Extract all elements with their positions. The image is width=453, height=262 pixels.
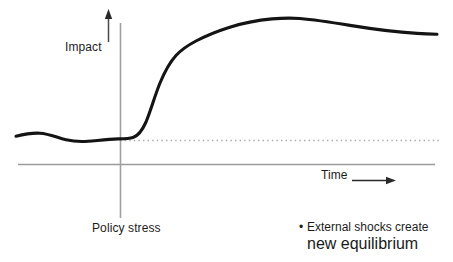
impact-response-curve [16, 18, 437, 141]
annotation-line-1-text: External shocks create [307, 220, 428, 234]
annotation-line-1: •External shocks create [299, 220, 449, 235]
bullet-point-icon: • [299, 220, 307, 235]
arrow-up-icon [105, 9, 112, 42]
x-axis-label: Time [321, 168, 348, 182]
annotation-bullet: •External shocks create new equilibrium [299, 220, 449, 253]
y-axis-label: Impact [65, 40, 102, 54]
policy-stress-label: Policy stress [92, 221, 161, 235]
impact-over-time-diagram: Impact Time Policy stress •External shoc… [0, 0, 453, 262]
arrow-right-icon [352, 177, 396, 185]
annotation-line-2: new equilibrium [299, 235, 449, 253]
